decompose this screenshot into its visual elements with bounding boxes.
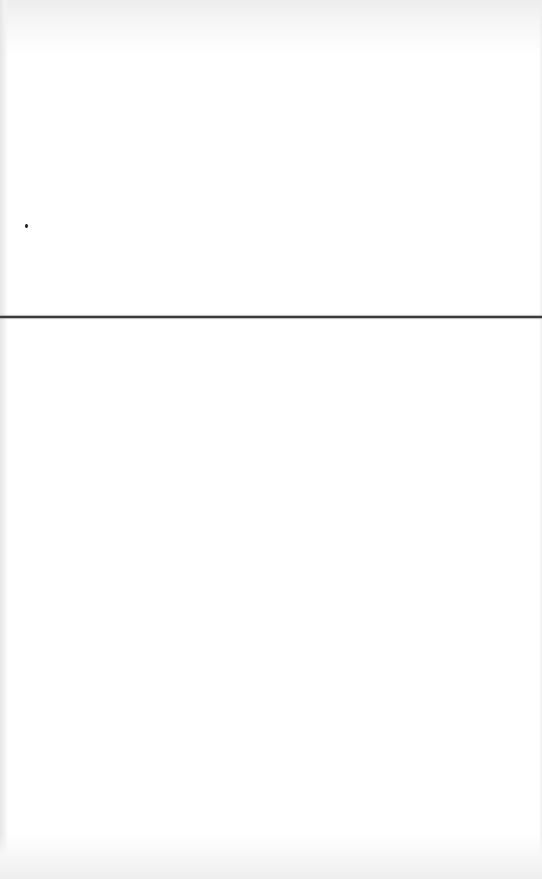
- scan-shading-bottom: [0, 834, 542, 879]
- horizontal-rule: [0, 316, 542, 318]
- scan-edge-left: [0, 0, 8, 879]
- scanned-page: [0, 0, 542, 879]
- ink-dot: [25, 224, 28, 228]
- scan-shading-top: [0, 0, 542, 55]
